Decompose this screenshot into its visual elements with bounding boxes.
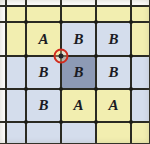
lattice-vertex-dot <box>129 54 133 58</box>
grid-cell-r3-c3: A <box>96 89 131 122</box>
lattice-vertex-dot <box>129 87 133 91</box>
lattice-vertex-dot <box>24 54 28 58</box>
grid-cell-r0-c3 <box>96 6 131 22</box>
grid-cell-r1-c4 <box>131 22 150 56</box>
lattice-vertex-dot <box>94 87 98 91</box>
grid-cell-r3-c2: A <box>61 89 96 122</box>
lattice-vertex-dot <box>59 120 63 124</box>
grid-cell-r3-c0 <box>6 89 26 122</box>
grid-cell-r1-c3: B <box>96 22 131 56</box>
lattice-vertex-dot <box>24 87 28 91</box>
lattice-vertex-dot <box>129 120 133 124</box>
grid-cell-r4-c3 <box>96 122 131 144</box>
lattice-vertex-dot <box>24 120 28 124</box>
cell-label: A <box>73 98 83 113</box>
gridline-vertical-0 <box>5 0 7 144</box>
grid-cell-r4-c2 <box>61 122 96 144</box>
grid-cell-r1-c0 <box>6 22 26 56</box>
cell-label: B <box>38 65 48 80</box>
figure-root: ABBBBBBAA <box>0 0 150 144</box>
grid-cell-r0-c2 <box>61 6 96 22</box>
gridline-horizontal-0 <box>0 5 150 7</box>
grid-cell-r0-c4 <box>131 6 150 22</box>
lattice-vertex-dot <box>94 20 98 24</box>
lattice-vertex-dot <box>94 54 98 58</box>
grid-cell-r4-c4 <box>131 122 150 144</box>
lattice-grid: ABBBBBBAA <box>0 0 150 144</box>
cell-label: B <box>38 98 48 113</box>
grid-cell-r3-c4 <box>131 89 150 122</box>
cell-label: A <box>108 98 118 113</box>
lattice-vertex-dot <box>59 20 63 24</box>
grid-cell-r4-c0 <box>6 122 26 144</box>
gridline-horizontal-1 <box>0 21 150 23</box>
gridline-horizontal-3 <box>0 88 150 90</box>
cell-label: B <box>73 32 83 47</box>
lattice-vertex-dot <box>129 20 133 24</box>
cell-label: B <box>73 65 83 80</box>
cell-label: B <box>108 65 118 80</box>
grid-cell-r2-c4 <box>131 56 150 89</box>
cell-label: A <box>38 32 48 47</box>
gridline-vertical-5 <box>149 0 150 144</box>
grid-cell-r0-c0 <box>6 6 26 22</box>
grid-cell-r2-c3: B <box>96 56 131 89</box>
lattice-vertex-dot <box>24 20 28 24</box>
gridline-horizontal-4 <box>0 121 150 123</box>
grid-cell-r3-c1: B <box>26 89 61 122</box>
grid-cell-r2-c0 <box>6 56 26 89</box>
lattice-vertex-dot <box>59 87 63 91</box>
grid-cell-r0-c1 <box>26 6 61 22</box>
lattice-vertex-dot <box>94 120 98 124</box>
cell-label: B <box>108 32 118 47</box>
gridline-horizontal-5 <box>0 143 150 144</box>
grid-cell-r4-c1 <box>26 122 61 144</box>
gridline-horizontal-2 <box>0 55 150 57</box>
vertex-marker-core <box>59 54 64 59</box>
